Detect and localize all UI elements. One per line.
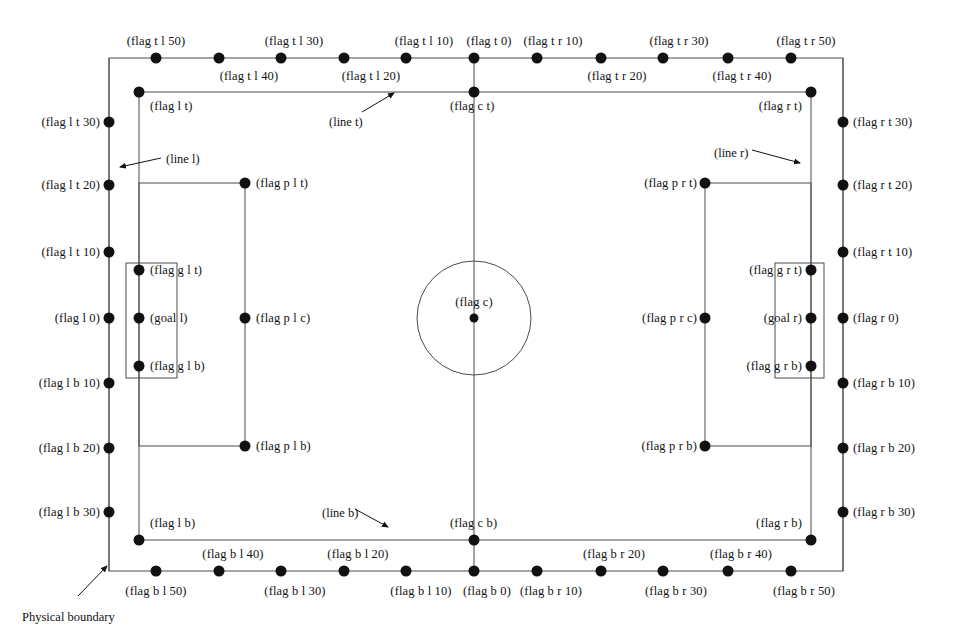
flag-g-l-b-label: (flag g l b) [150, 360, 205, 373]
flag-p-l-b-marker [240, 441, 251, 452]
flag-b-r-40-label: (flag b r 40) [710, 548, 772, 561]
flag-b-r-30-label: (flag b r 30) [645, 585, 707, 598]
flag-b-l-10-marker [401, 566, 412, 577]
flag-l-0-label: (flag l 0) [55, 312, 100, 325]
flag-r-t-marker [806, 87, 817, 98]
flag-l-b-marker [134, 535, 145, 546]
flag-r-t-20-label: (flag r t 20) [853, 179, 912, 192]
arrow-line-l [120, 158, 161, 167]
flag-p-r-c-label: (flag p r c) [642, 312, 697, 325]
flag-r-b-marker [806, 535, 817, 546]
goal-l-marker [134, 313, 145, 324]
flag-t-l-20-marker [339, 53, 350, 64]
flag-p-l-b-label: (flag p l b) [256, 440, 311, 453]
flag-t-l-40-marker [214, 53, 225, 64]
flag-b-r-10-label: (flag b r 10) [520, 585, 582, 598]
flag-b-l-40-label: (flag b l 40) [202, 548, 263, 561]
flag-t-r-10-label: (flag t r 10) [523, 35, 582, 48]
flag-b-0-marker [469, 566, 480, 577]
flag-b-r-20-label: (flag b r 20) [583, 548, 645, 561]
flag-g-l-t-label: (flag g l t) [150, 264, 202, 277]
flag-p-l-c-label: (flag p l c) [256, 312, 310, 325]
line-b-label: (line b) [322, 506, 358, 521]
flag-t-l-10-label: (flag t l 10) [395, 35, 454, 48]
flag-b-r-50-label: (flag b r 50) [773, 585, 835, 598]
line-t-label: (line t) [329, 115, 363, 130]
flag-b-r-50-marker [786, 566, 797, 577]
flag-l-b-20-marker [104, 443, 115, 454]
flag-t-r-30-label: (flag t r 30) [649, 35, 708, 48]
arrow-physical-boundary [78, 566, 107, 596]
flag-t-r-50-marker [786, 53, 797, 64]
arrow-line-t [362, 93, 394, 112]
flag-t-l-40-label: (flag t l 40) [220, 70, 279, 83]
flag-r-b-label: (flag r b) [756, 517, 802, 530]
flag-g-l-b-marker [134, 361, 145, 372]
flag-b-l-20-label: (flag b l 20) [327, 548, 388, 561]
flag-p-r-t-marker [700, 178, 711, 189]
flag-l-t-30-label: (flag l t 30) [41, 116, 100, 129]
goal-l-label: (goal l) [150, 312, 188, 325]
flag-b-l-30-marker [276, 566, 287, 577]
goal-r-label: (goal r) [764, 312, 802, 325]
flag-l-t-30-marker [104, 117, 115, 128]
flag-r-b-10-marker [838, 378, 849, 389]
flag-r-b-10-label: (flag r b 10) [853, 377, 915, 390]
flag-b-r-30-marker [658, 566, 669, 577]
flag-t-0-label: (flag t 0) [466, 35, 511, 48]
flag-t-l-20-label: (flag t l 20) [342, 70, 401, 83]
flag-c-b-marker [469, 535, 480, 546]
flag-r-t-30-marker [838, 117, 849, 128]
flag-r-0-label: (flag r 0) [853, 312, 899, 325]
flag-b-l-50-marker [151, 566, 162, 577]
flag-r-b-30-label: (flag r b 30) [853, 506, 915, 519]
flag-b-r-40-marker [723, 566, 734, 577]
flag-t-0-marker [469, 53, 480, 64]
flag-c-marker [470, 314, 479, 323]
flag-b-l-10-label: (flag b l 10) [390, 585, 451, 598]
line-r-label: (line r) [714, 146, 748, 161]
flag-t-l-50-label: (flag t l 50) [127, 35, 186, 48]
flag-r-0-marker [838, 313, 849, 324]
flag-p-l-t-marker [240, 178, 251, 189]
flag-t-l-30-label: (flag t l 30) [265, 35, 324, 48]
flag-markers [104, 53, 849, 577]
flag-r-t-label: (flag r t) [759, 100, 802, 113]
flag-p-l-t-label: (flag p l t) [256, 177, 308, 190]
flag-r-b-30-marker [838, 507, 849, 518]
flag-r-b-20-marker [838, 443, 849, 454]
flag-g-r-b-marker [806, 361, 817, 372]
field-svg [0, 0, 965, 644]
flag-t-r-30-marker [658, 53, 669, 64]
flag-l-b-20-label: (flag l b 20) [39, 442, 100, 455]
flag-t-r-20-marker [596, 53, 607, 64]
flag-t-r-20-label: (flag t r 20) [587, 70, 646, 83]
flag-l-t-20-label: (flag l t 20) [41, 179, 100, 192]
flag-t-r-10-marker [532, 53, 543, 64]
flag-l-b-label: (flag l b) [150, 517, 195, 530]
flag-g-r-t-label: (flag g r t) [749, 264, 802, 277]
flag-p-l-c-marker [240, 313, 251, 324]
flag-t-l-10-marker [401, 53, 412, 64]
line-l-label: (line l) [166, 152, 200, 167]
flag-b-l-40-marker [214, 566, 225, 577]
flag-t-r-40-label: (flag t r 40) [712, 70, 771, 83]
flag-l-b-10-marker [104, 378, 115, 389]
flag-l-t-label: (flag l t) [150, 100, 192, 113]
flag-b-l-20-marker [339, 566, 350, 577]
flag-r-t-20-marker [838, 180, 849, 191]
flag-c-t-marker [469, 87, 480, 98]
flag-t-l-30-marker [276, 53, 287, 64]
flag-r-t-10-marker [838, 247, 849, 258]
flag-l-b-30-label: (flag l b 30) [39, 506, 100, 519]
flag-r-t-30-label: (flag r t 30) [853, 116, 912, 129]
flag-t-l-50-marker [151, 53, 162, 64]
flag-l-t-10-marker [104, 247, 115, 258]
flag-b-r-20-marker [596, 566, 607, 577]
flag-c-t-label: (flag c t) [450, 100, 495, 113]
flag-t-r-40-marker [723, 53, 734, 64]
flag-r-b-20-label: (flag r b 20) [853, 442, 915, 455]
flag-g-r-b-label: (flag g r b) [746, 360, 802, 373]
flag-p-r-t-label: (flag p r t) [644, 177, 697, 190]
flag-p-r-b-marker [700, 441, 711, 452]
